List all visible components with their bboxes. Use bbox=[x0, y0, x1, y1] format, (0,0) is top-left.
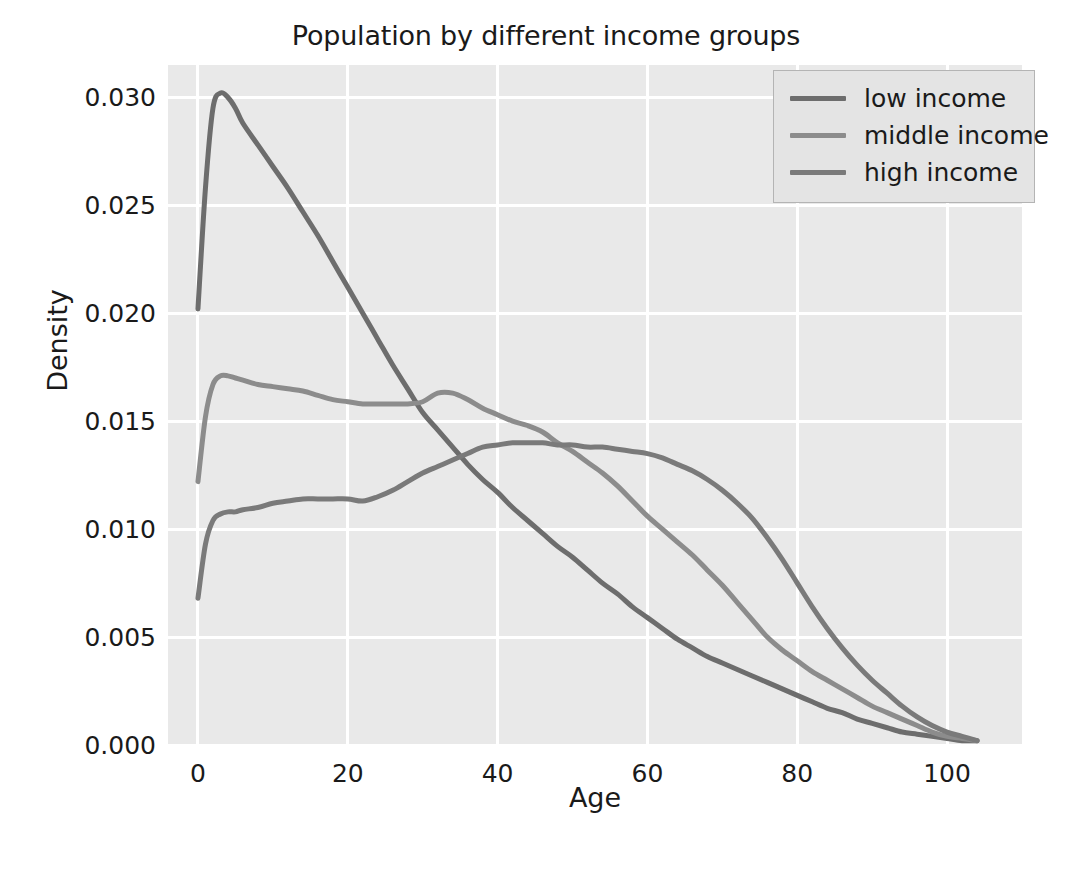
legend-item-low-income[interactable]: low income bbox=[774, 80, 1034, 117]
legend-swatch-high-income bbox=[790, 170, 846, 175]
legend-swatch-low-income bbox=[790, 96, 846, 101]
legend-label-low-income: low income bbox=[864, 86, 1006, 111]
legend-item-high-income[interactable]: high income bbox=[774, 154, 1034, 191]
series-line-middle-income bbox=[198, 375, 977, 741]
legend-label-middle-income: middle income bbox=[864, 123, 1049, 148]
legend-label-high-income: high income bbox=[864, 160, 1018, 185]
y-tick-label: 0.025 bbox=[16, 191, 156, 220]
figure-canvas: Population by different income groups De… bbox=[0, 0, 1092, 880]
y-tick-label: 0.000 bbox=[16, 731, 156, 760]
legend-swatch-middle-income bbox=[790, 133, 846, 138]
legend-item-middle-income[interactable]: middle income bbox=[774, 117, 1034, 154]
series-line-high-income bbox=[198, 443, 977, 741]
y-tick-label: 0.015 bbox=[16, 407, 156, 436]
legend: low income middle income high income bbox=[773, 70, 1035, 203]
y-tick-label: 0.020 bbox=[16, 299, 156, 328]
y-tick-label: 0.030 bbox=[16, 83, 156, 112]
x-axis-label: Age bbox=[168, 782, 1022, 813]
y-tick-label: 0.005 bbox=[16, 623, 156, 652]
chart-title: Population by different income groups bbox=[0, 20, 1092, 51]
y-tick-label: 0.010 bbox=[16, 515, 156, 544]
